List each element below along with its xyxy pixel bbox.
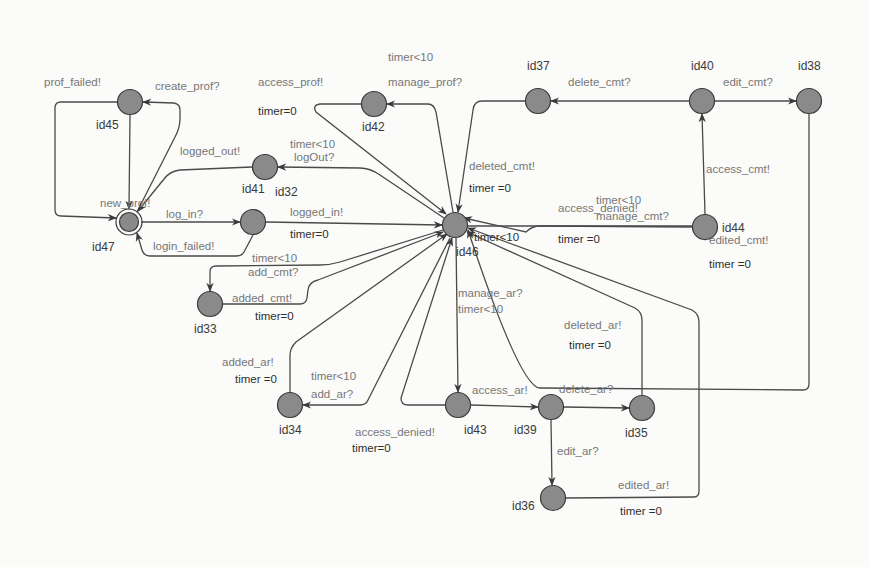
assign-label: timer=0 (352, 442, 391, 454)
sync-label: logOut? (294, 151, 334, 163)
guard-label: timer<10 (311, 370, 356, 382)
automaton-diagram: id45id42id37id40id38id44id32id41id47id46… (0, 0, 869, 567)
transition-arrow (129, 115, 130, 209)
sync-label: delete_cmt? (568, 76, 631, 88)
sync-label: edit_cmt? (723, 76, 773, 88)
sync-label: deleted_ar! (564, 319, 622, 331)
transition-id39-to-id35 (564, 407, 629, 408)
location-id40: id40 (690, 59, 715, 114)
sync-label: delete_ar? (559, 383, 613, 395)
sync-label: logged_in! (290, 206, 343, 218)
location-id34: id34 (278, 393, 303, 438)
location-circle (253, 155, 278, 180)
location-label: id44 (722, 221, 745, 235)
transition-arrow (702, 114, 705, 214)
transition-arrow (564, 407, 629, 408)
sync-label: new_prof! (100, 197, 151, 209)
sync-label: edited_cmt! (709, 234, 768, 246)
location-id39: id39 (514, 395, 564, 438)
guard-label: timer<10 (290, 138, 335, 150)
location-label: id47 (92, 240, 115, 254)
transition-id43-to-id46 (401, 238, 452, 405)
transition-arrow (290, 234, 447, 392)
transition-id37-to-id46 (458, 101, 525, 212)
location-circle (446, 393, 471, 418)
location-label: id37 (527, 59, 550, 73)
location-id45: id45 (96, 90, 143, 133)
transition-id47-to-id45 (137, 102, 180, 212)
transition-id39-to-id36 (551, 420, 552, 485)
sync-label: added_cmt! (232, 292, 292, 304)
transition-arrow (468, 228, 699, 498)
transition-arrow (456, 238, 458, 392)
edges-layer (55, 101, 809, 498)
transition-arrow (468, 114, 809, 390)
sync-label: access_ar! (472, 384, 528, 396)
location-id37: id37 (526, 59, 551, 114)
location-id47: id47 (92, 209, 142, 254)
sync-label: logged_out! (180, 145, 240, 157)
location-circle (443, 213, 468, 238)
location-id43: id43 (446, 393, 488, 438)
guard-label: timer<10 (458, 303, 503, 315)
sync-label: log_in? (166, 208, 203, 220)
assign-label: timer=0 (290, 228, 329, 240)
location-id38: id38 (797, 59, 822, 114)
location-circle (278, 393, 303, 418)
assign-label: timer=0 (258, 105, 297, 117)
location-id41: id41 (241, 182, 266, 235)
location-label: id38 (798, 59, 821, 73)
invariant-label: timer<10 (474, 231, 519, 243)
sync-label: login_failed! (153, 240, 214, 252)
transition-id32-to-id47 (138, 167, 252, 211)
sync-label: create_prof? (155, 80, 220, 92)
location-circle (690, 89, 715, 114)
location-id36: id36 (512, 486, 566, 514)
sync-label: added_ar! (222, 356, 274, 368)
location-circle (526, 89, 551, 114)
assign-label: timer =0 (469, 182, 511, 194)
assign-label: timer=0 (255, 310, 294, 322)
sync-label: add_ar? (311, 388, 353, 400)
guard-label: timer<10 (252, 252, 297, 264)
location-label: id45 (96, 118, 119, 132)
labels-layer: log_in?login_failed!logged_in!timer=0new… (44, 51, 773, 517)
location-label: id34 (279, 423, 302, 437)
location-circle (118, 90, 143, 115)
sync-label: manage_ar? (458, 287, 523, 299)
sync-label: access_prof! (258, 76, 323, 88)
location-label: id43 (464, 423, 487, 437)
sync-label: manage_cmt? (596, 210, 669, 222)
transition-id38-to-id46 (468, 114, 809, 390)
location-label: id35 (625, 426, 648, 440)
location-label: id42 (362, 120, 385, 134)
transition-arrow (551, 420, 552, 485)
transition-id44-to-id40 (702, 114, 705, 214)
transition-id43-to-id39 (471, 405, 538, 407)
assign-label: timer =0 (569, 339, 611, 351)
location-label: id41 (242, 182, 265, 196)
transition-id45-to-id47 (129, 115, 130, 209)
sync-label: edited_ar! (618, 479, 669, 491)
guard-label: timer<10 (596, 194, 641, 206)
location-circle (362, 92, 387, 117)
location-circle (797, 89, 822, 114)
transition-arrow (266, 222, 442, 225)
sync-label: manage_prof? (388, 76, 462, 88)
location-id33: id33 (194, 292, 223, 337)
location-label: id40 (691, 59, 714, 73)
transition-id36-to-id46 (468, 228, 699, 498)
sync-label: prof_failed! (44, 76, 101, 88)
location-label: id36 (512, 499, 535, 513)
transition-id41-to-id46 (266, 222, 442, 225)
assign-label: timer =0 (558, 233, 600, 245)
transition-arrow (471, 405, 538, 407)
location-circle (120, 213, 139, 232)
location-circle (539, 395, 564, 420)
transition-id34-to-id46 (290, 234, 447, 392)
transition-id46-to-id42 (387, 104, 453, 212)
transition-arrow (458, 101, 525, 212)
transition-arrow (138, 167, 252, 211)
assign-label: timer =0 (709, 258, 751, 270)
location-circle (241, 210, 266, 235)
